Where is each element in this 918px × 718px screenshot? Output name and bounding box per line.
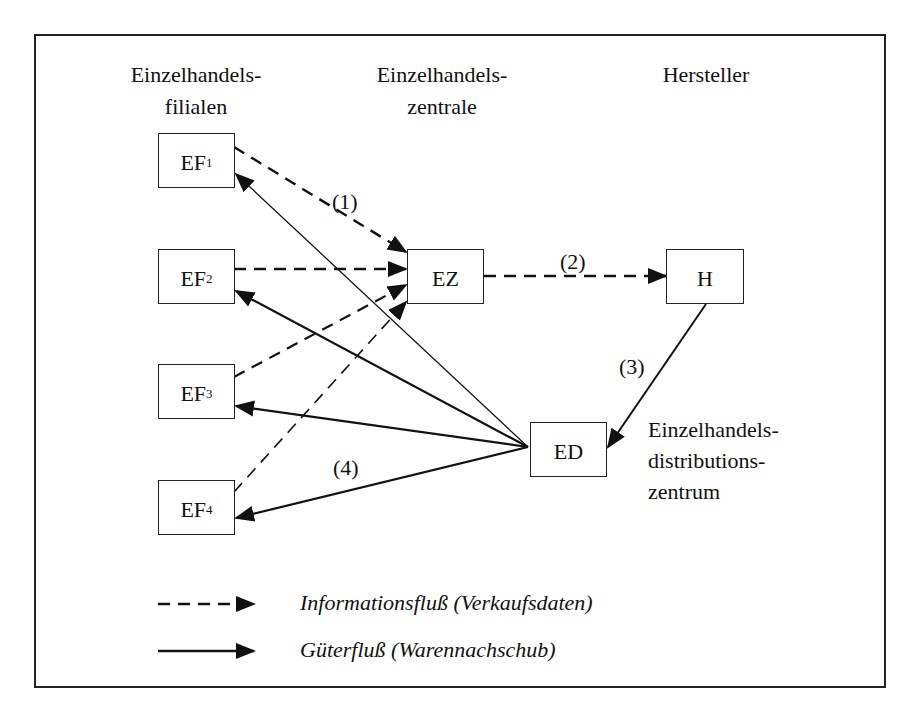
node-ed[interactable]: ED [530, 422, 607, 477]
flow-label-1: (1) [332, 190, 358, 214]
node-ef4-label: EF [180, 497, 206, 523]
flow-label-2: (2) [560, 250, 586, 274]
node-ef1-label: EF [180, 150, 206, 176]
legend-information-flow: Informationsfluß (Verkaufsdaten) [300, 590, 593, 616]
goods-flow-ed-ef2 [236, 291, 528, 447]
header-retail-stores-line2: filialen [116, 91, 276, 123]
node-h[interactable]: H [666, 249, 744, 304]
flow-label-3: (3) [619, 355, 645, 379]
info-flow-ef1-ez [234, 147, 406, 252]
node-ez[interactable]: EZ [407, 249, 484, 304]
node-ef1[interactable]: EF1 [158, 133, 235, 188]
header-retail-hq-line1: Einzelhandels- [362, 59, 522, 91]
legend-goods-flow: Güterfluß (Warennachschub) [300, 637, 556, 663]
header-retail-stores: Einzelhandels- filialen [116, 59, 276, 123]
node-ef4[interactable]: EF4 [158, 480, 235, 535]
header-retail-hq: Einzelhandels- zentrale [362, 59, 522, 123]
node-ef2[interactable]: EF2 [158, 249, 235, 304]
distribution-center-label-line3: zentrum [648, 476, 779, 507]
node-ef2-label: EF [180, 266, 206, 292]
goods-flow-ed-ef1 [236, 174, 528, 447]
distribution-center-label-line2: distributions- [648, 445, 779, 476]
info-flow-ef3-ez [234, 285, 406, 377]
goods-flow-ed-ef4 [236, 447, 528, 518]
node-h-label: H [697, 266, 713, 292]
distribution-center-label: Einzelhandels- distributions- zentrum [648, 414, 779, 507]
node-ef3-subscript: 3 [206, 386, 213, 402]
node-ez-label: EZ [432, 266, 459, 292]
node-ef2-subscript: 2 [206, 271, 213, 287]
info-flow-ef4-ez [234, 302, 406, 492]
header-retail-hq-line2: zentrale [362, 91, 522, 123]
header-manufacturer-line1: Hersteller [626, 59, 786, 91]
header-retail-stores-line1: Einzelhandels- [116, 59, 276, 91]
node-ef1-subscript: 1 [206, 155, 213, 171]
node-ef3-label: EF [180, 381, 206, 407]
flow-label-4: (4) [333, 456, 359, 480]
distribution-center-label-line1: Einzelhandels- [648, 414, 779, 445]
node-ed-label: ED [554, 439, 583, 465]
node-ef4-subscript: 4 [206, 502, 213, 518]
header-manufacturer: Hersteller [626, 59, 786, 91]
node-ef3[interactable]: EF3 [158, 364, 235, 419]
